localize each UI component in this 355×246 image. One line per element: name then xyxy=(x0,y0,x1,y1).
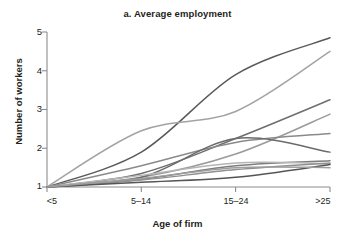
x-axis-label: Age of firm xyxy=(0,218,355,229)
chart-plot-area xyxy=(0,0,355,246)
x-tick-label: >25 xyxy=(315,196,330,206)
chart-line-series-1 xyxy=(47,38,330,187)
x-tick-label: 5–14 xyxy=(131,196,151,206)
x-tick-label: <5 xyxy=(47,196,57,206)
chart-container: a. Average employment Number of workers … xyxy=(0,0,355,246)
chart-series-group xyxy=(47,38,330,187)
x-tick-label: 15–24 xyxy=(223,196,248,206)
chart-line-series-4 xyxy=(47,114,330,187)
